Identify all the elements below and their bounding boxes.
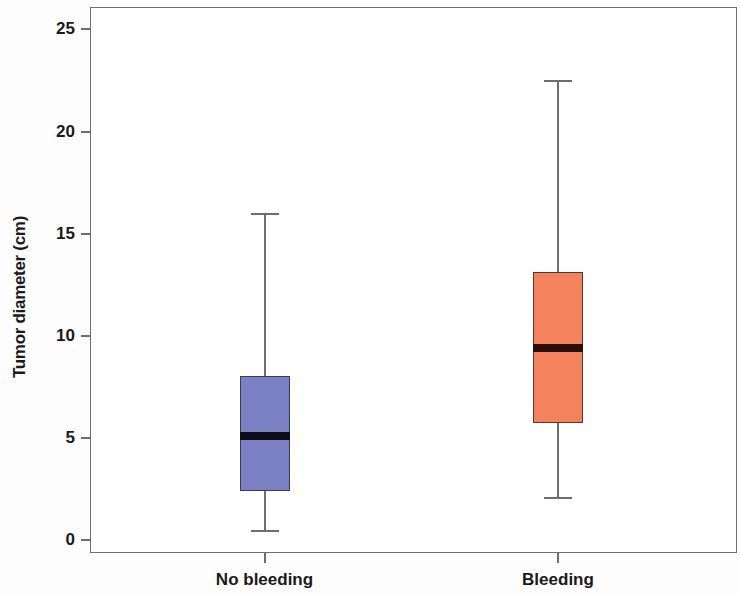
boxplot-figure: Tumor diameter (cm) 0510152025 No bleedi… [0,0,740,594]
y-tick-label: 10 [56,324,75,348]
y-tick-label: 20 [56,120,75,144]
y-tick-mark [81,131,90,133]
y-tick-mark [81,539,90,541]
median-line [533,344,583,352]
median-line [240,432,290,440]
lower-whisker-cap [251,530,279,532]
upper-whisker-cap [251,213,279,215]
lower-whisker-cap [544,497,572,499]
lower-whisker-line [264,491,266,530]
y-tick-label: 25 [56,17,75,41]
y-tick-mark [81,28,90,30]
plot-area [90,7,737,553]
y-axis-title: Tumor diameter (cm) [0,0,40,594]
y-tick-label: 5 [66,426,75,450]
y-tick-mark [81,335,90,337]
x-tick-mark [557,553,559,563]
y-tick-label: 15 [56,222,75,246]
y-tick-mark [81,437,90,439]
x-tick-label: Bleeding [438,570,678,590]
upper-whisker-line [557,80,559,272]
lower-whisker-line [557,423,559,496]
x-tick-label: No bleeding [145,570,385,590]
upper-whisker-cap [544,80,572,82]
upper-whisker-line [264,213,266,376]
x-tick-mark [264,553,266,563]
y-tick-label: 0 [66,528,75,552]
y-tick-mark [81,233,90,235]
